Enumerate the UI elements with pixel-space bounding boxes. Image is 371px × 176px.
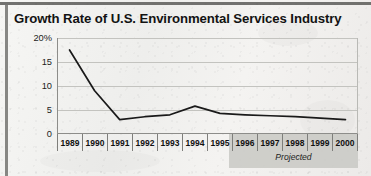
y-tick-label-15: 15	[22, 58, 52, 67]
y-tick-label-5: 5	[22, 106, 52, 115]
y-axis: 20% 15 10 5 0	[18, 0, 52, 176]
x-axis-year-1994: 1994	[183, 134, 208, 151]
x-axis-year-1998: 1998	[283, 134, 308, 151]
plot-area	[57, 38, 358, 134]
y-tick-label-20: 20%	[22, 34, 52, 43]
projected-label: Projected	[229, 152, 358, 162]
x-axis-year-strip: 1989199019911992199319941995199619971998…	[57, 134, 358, 151]
x-axis-year-1999: 1999	[308, 134, 333, 151]
x-axis-year-1990: 1990	[83, 134, 108, 151]
x-axis-year-1996: 1996	[233, 134, 258, 151]
x-axis-year-1989: 1989	[57, 134, 83, 151]
y-tick-label-10: 10	[22, 82, 52, 91]
chart-figure: Growth Rate of U.S. Environmental Servic…	[0, 0, 371, 176]
plot-frame	[57, 38, 358, 134]
x-axis-year-2000: 2000	[333, 134, 358, 151]
x-axis-year-1991: 1991	[108, 134, 133, 151]
x-axis-year-1993: 1993	[158, 134, 183, 151]
plot-region: 20% 15 10 5 0 19891990199119921993199419…	[0, 0, 371, 176]
y-tick-label-0: 0	[22, 130, 52, 139]
x-axis-year-1995: 1995	[208, 134, 233, 151]
x-axis-year-1997: 1997	[258, 134, 283, 151]
x-axis-year-1992: 1992	[133, 134, 158, 151]
